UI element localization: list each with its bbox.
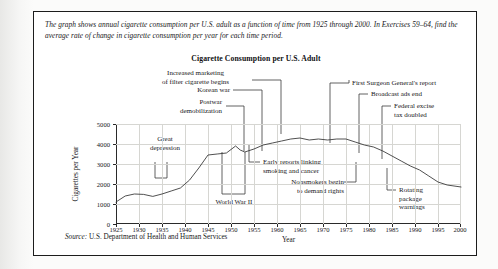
y-axis-title: Cigarettes per Year	[72, 147, 80, 202]
annotation-korean-war: Korean war	[152, 86, 230, 95]
y-tick-3000: 3000	[97, 161, 110, 168]
annotation-filter-marketing: Increased marketing of filter cigarette …	[162, 69, 229, 86]
screenshot-page: The graph shows annual cigarette consump…	[0, 0, 498, 269]
x-tick-1945: 1945	[201, 226, 214, 233]
x-tick-1985: 1985	[385, 226, 398, 233]
chart-title: Cigarette Consumption per U.S. Adult	[34, 54, 478, 63]
y-tick-5000: 5000	[97, 121, 110, 128]
annotation-postwar-demobilization: Postwar demobilization	[146, 98, 222, 115]
x-tick-1990: 1990	[408, 226, 421, 233]
x-tick-1935: 1935	[155, 226, 168, 233]
chart-plot-area: 5000 4000 3000 2000 1000 0 1925 1930 193…	[116, 124, 461, 224]
consumption-line-series	[116, 124, 461, 224]
x-tick-1950: 1950	[224, 226, 237, 233]
x-tick-2000: 2000	[453, 226, 466, 233]
annotation-broadcast-ads-end: Broadcast ads end	[371, 90, 422, 99]
y-tick-4000: 4000	[97, 141, 110, 148]
x-tick-1965: 1965	[293, 226, 306, 233]
x-tick-1970: 1970	[316, 226, 329, 233]
x-tick-1960: 1960	[270, 226, 283, 233]
x-tick-1925: 1925	[109, 226, 122, 233]
figure-container: The graph shows annual cigarette consump…	[33, 11, 477, 256]
x-tick-1980: 1980	[362, 226, 375, 233]
x-tick-1955: 1955	[247, 226, 260, 233]
x-tick-1995: 1995	[431, 226, 444, 233]
y-tick-2000: 2000	[97, 181, 110, 188]
annotation-surgeon-general-report: First Surgeon General's report	[352, 79, 436, 88]
page-edge-shading	[0, 0, 33, 269]
exercise-intro-text: The graph shows annual cigarette consump…	[45, 19, 465, 41]
y-tick-1000: 1000	[97, 201, 110, 208]
x-tick-1975: 1975	[339, 226, 352, 233]
annotation-federal-excise-tax: Federal excise tax doubled	[394, 102, 434, 119]
source-label: Source:	[65, 233, 87, 241]
x-tick-1940: 1940	[178, 226, 191, 233]
source-caption: Source: U.S. Department of Health and Hu…	[65, 233, 227, 241]
source-value: U.S. Department of Health and Human Serv…	[89, 233, 228, 241]
x-tick-1930: 1930	[132, 226, 145, 233]
